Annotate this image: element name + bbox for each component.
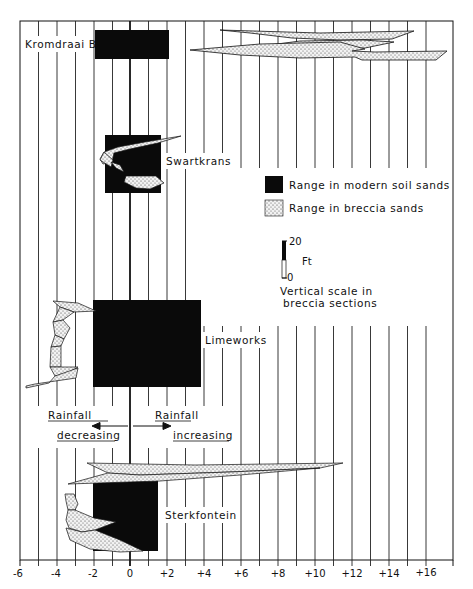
site-label-limeworks: Limeworks <box>205 334 267 346</box>
tick-label: +10 <box>304 568 325 579</box>
tick-label: +4 <box>197 568 212 579</box>
legend-swatch-breccia <box>265 200 283 216</box>
scale-top-value: 20 <box>289 236 302 247</box>
rainfall-left-top: Rainfall <box>48 409 92 421</box>
tick-label: +16 <box>415 567 436 578</box>
limeworks-modern-bar <box>93 300 201 387</box>
x-axis-ticks <box>20 560 453 566</box>
scale-caption-line2: breccia sections <box>283 297 377 309</box>
scale-unit: Ft <box>302 256 312 267</box>
tick-label: +6 <box>234 568 249 579</box>
tick-label: -2 <box>88 568 98 579</box>
tick-label: +8 <box>271 568 286 579</box>
label-masks <box>22 36 452 523</box>
legend-swatch-modern <box>265 176 283 193</box>
rainfall-right-top: Rainfall <box>155 409 199 421</box>
x-axis-tick-labels: -6 -4 -2 0 +2 +4 +6 +8 +10 +12 +14 +16 <box>13 567 437 579</box>
kromdraai-breccia-profile <box>190 30 447 60</box>
site-label-sterkfontein: Sterkfontein <box>165 509 237 521</box>
site-label-kromdraai: Kromdraai B <box>25 38 97 50</box>
chart-canvas: Kromdraai B Swartkrans Limeworks Sterkfo… <box>0 0 473 589</box>
tick-label: -6 <box>13 568 23 579</box>
rainfall-right-bottom: increasing <box>173 429 233 441</box>
tick-label: +2 <box>160 568 175 579</box>
scale-caption-line1: Vertical scale in <box>280 285 373 297</box>
legend-label-breccia: Range in breccia sands <box>289 202 424 214</box>
tick-label: +12 <box>341 568 362 579</box>
rainfall-left-bottom: decreasing <box>57 429 121 441</box>
tick-label: 0 <box>127 568 133 579</box>
scale-bottom-value: 0 <box>287 272 293 283</box>
tick-label: -4 <box>51 568 61 579</box>
legend-label-modern: Range in modern soil sands <box>289 179 450 191</box>
tick-label: +14 <box>378 568 399 579</box>
limeworks-breccia-profile <box>26 301 96 388</box>
site-label-swartkrans: Swartkrans <box>166 155 231 167</box>
kromdraai-modern-bar <box>95 30 169 59</box>
